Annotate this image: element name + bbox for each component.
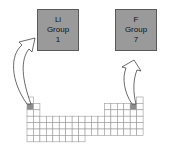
grid-cell xyxy=(137,97,143,103)
grid-cell xyxy=(72,123,78,129)
grid-cell xyxy=(27,129,33,135)
grid-cell xyxy=(104,123,110,129)
grid-cell xyxy=(85,129,91,135)
grid-cell xyxy=(85,116,91,122)
grid-cell xyxy=(33,110,39,116)
grid-cell xyxy=(124,116,130,122)
grid-cell xyxy=(111,116,117,122)
grid-cell xyxy=(53,116,59,122)
grid-cell xyxy=(72,135,78,141)
grid-cell xyxy=(104,116,110,122)
grid-cell xyxy=(53,123,59,129)
grid-cell xyxy=(27,135,33,141)
grid-cell xyxy=(117,129,123,135)
grid-cell xyxy=(92,123,98,129)
arrow-li xyxy=(14,38,35,104)
group-label: Group xyxy=(125,25,147,35)
element-symbol: F xyxy=(134,15,139,25)
fluorine-group-box: F Group 7 xyxy=(115,9,157,51)
grid-cell xyxy=(33,103,39,109)
grid-cell xyxy=(137,123,143,129)
grid-cell xyxy=(40,129,46,135)
grid-cell xyxy=(117,123,123,129)
grid-cell xyxy=(137,129,143,135)
grid-cell xyxy=(98,116,104,122)
grid-cell xyxy=(124,123,130,129)
group-label: Group xyxy=(47,25,69,35)
grid-cell xyxy=(92,129,98,135)
lithium-group-box: Li Group 1 xyxy=(37,9,79,51)
grid-cell xyxy=(98,123,104,129)
grid-cell xyxy=(40,123,46,129)
grid-cell xyxy=(33,129,39,135)
grid-cell xyxy=(33,116,39,122)
grid-cell xyxy=(137,103,143,109)
periodic-table-grid xyxy=(27,97,143,142)
grid-cell xyxy=(130,110,136,116)
grid-cell xyxy=(111,103,117,109)
grid-cell xyxy=(59,123,65,129)
grid-cell xyxy=(59,129,65,135)
grid-cell xyxy=(59,135,65,141)
grid-cell xyxy=(66,135,72,141)
grid-cell xyxy=(79,129,85,135)
grid-cell xyxy=(66,123,72,129)
grid-cell xyxy=(46,123,52,129)
grid-cell xyxy=(130,123,136,129)
group-number: 7 xyxy=(134,35,138,45)
grid-cell xyxy=(27,110,33,116)
grid-cell xyxy=(104,129,110,135)
grid-cell xyxy=(92,116,98,122)
grid-cell xyxy=(33,123,39,129)
grid-cell xyxy=(124,129,130,135)
grid-cell xyxy=(53,129,59,135)
element-symbol: Li xyxy=(55,15,61,25)
grid-cell xyxy=(33,135,39,141)
grid-cell xyxy=(111,123,117,129)
grid-cell xyxy=(66,129,72,135)
grid-cell xyxy=(137,110,143,116)
grid-cell xyxy=(72,129,78,135)
grid-cell xyxy=(85,123,91,129)
grid-cell xyxy=(124,103,130,109)
grid-cell xyxy=(72,116,78,122)
grid-cell xyxy=(66,116,72,122)
group-number: 1 xyxy=(56,35,60,45)
grid-cell xyxy=(40,116,46,122)
grid-cell xyxy=(27,116,33,122)
grid-cell xyxy=(111,129,117,135)
grid-cell xyxy=(130,129,136,135)
grid-cell xyxy=(117,110,123,116)
grid-cell xyxy=(40,135,46,141)
grid-cell xyxy=(46,135,52,141)
grid-cell xyxy=(117,116,123,122)
grid-cell xyxy=(111,110,117,116)
grid-cell xyxy=(117,103,123,109)
grid-cell xyxy=(79,116,85,122)
grid-cell xyxy=(124,110,130,116)
grid-cell xyxy=(59,116,65,122)
grid-cell xyxy=(130,116,136,122)
grid-cell xyxy=(79,135,85,141)
grid-cell xyxy=(98,129,104,135)
grid-cell xyxy=(46,129,52,135)
grid-cell xyxy=(46,116,52,122)
grid-cell xyxy=(53,135,59,141)
grid-cell xyxy=(79,123,85,129)
grid-cell xyxy=(104,103,110,109)
grid-cell xyxy=(104,110,110,116)
grid-cell xyxy=(27,123,33,129)
grid-cell xyxy=(137,116,143,122)
